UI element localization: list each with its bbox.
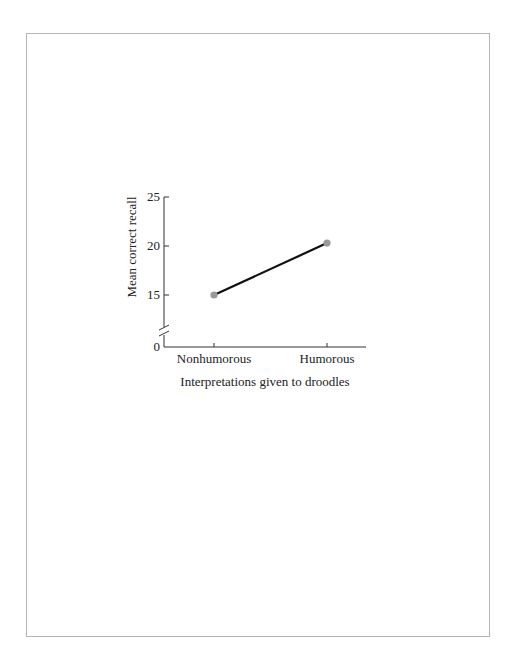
x-category-label-nonhumorous: Nonhumorous	[177, 351, 251, 366]
data-line	[214, 243, 327, 295]
data-point-humorous	[323, 239, 330, 246]
y-tick-label-0: 0	[154, 339, 161, 354]
line-chart: 25 20 15 0 Nonhumorous Humorous Interpre…	[0, 0, 516, 667]
y-tick-label-25: 25	[147, 189, 160, 204]
y-tick-label-15: 15	[147, 287, 160, 302]
y-axis-title: Mean correct recall	[124, 196, 139, 297]
data-point-nonhumorous	[210, 291, 217, 298]
x-category-label-humorous: Humorous	[300, 351, 355, 366]
y-tick-label-20: 20	[147, 238, 160, 253]
x-axis-title: Interpretations given to droodles	[180, 374, 349, 389]
